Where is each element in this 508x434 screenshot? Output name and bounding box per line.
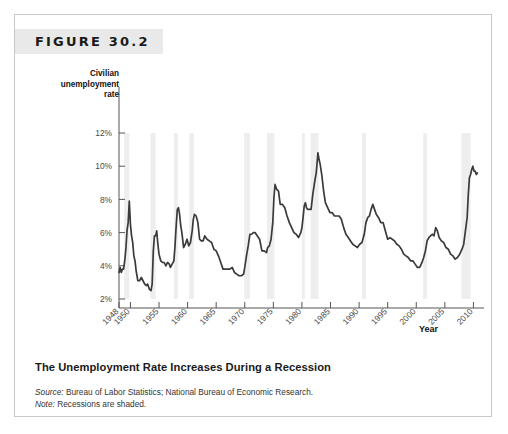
x-tick-label: 2010 — [455, 306, 475, 326]
y-tick-label: 10% — [95, 161, 112, 171]
recession-band — [244, 133, 250, 299]
x-tick-label: 1975 — [255, 306, 275, 326]
source-text: Bureau of Labor Statistics; National Bur… — [64, 387, 314, 397]
axis-group — [119, 87, 484, 308]
x-tick-label: 1960 — [169, 306, 189, 326]
x-tick-label: 1985 — [312, 306, 332, 326]
y-tick-label: 4% — [100, 261, 113, 271]
x-tick-label: 1965 — [197, 306, 217, 326]
x-tick-label: 1990 — [340, 306, 360, 326]
unemployment-line-chart: 2%4%6%8%10%12% 1948195019551960196519701… — [15, 15, 493, 345]
figure-source-line: Source: Bureau of Labor Statistics; Nati… — [35, 387, 313, 397]
y-axis-ticks: 2%4%6%8%10%12% — [95, 128, 125, 304]
recession-band — [362, 133, 366, 299]
y-tick-label: 8% — [100, 195, 113, 205]
x-tick-label: 1970 — [226, 306, 246, 326]
figure-container: FIGURE 30.2 2%4%6%8%10%12% 1948195019551… — [14, 14, 492, 417]
x-tick-label: 1980 — [283, 306, 303, 326]
recession-band — [189, 133, 194, 299]
note-text: Recessions are shaded. — [55, 399, 146, 409]
chart-plot-area: 2%4%6%8%10%12% 1948195019551960196519701… — [15, 15, 493, 345]
source-label: Source: — [35, 387, 64, 397]
x-axis-ticks: 1948195019551960196519701975198019851990… — [100, 302, 475, 327]
y-tick-label: 6% — [100, 228, 113, 238]
recession-band — [423, 133, 427, 299]
x-tick-label: 2000 — [397, 306, 417, 326]
figure-caption-title: The Unemployment Rate Increases During a… — [35, 361, 331, 373]
y-axis-title: Civilian unemployment rate — [49, 69, 119, 101]
x-tick-label: 1995 — [369, 306, 389, 326]
y-tick-label: 12% — [95, 128, 112, 138]
x-axis-title: Year — [419, 324, 438, 334]
recession-band — [461, 133, 470, 299]
x-tick-label: 1955 — [140, 306, 160, 326]
note-label: Note: — [35, 399, 55, 409]
figure-note-line: Note: Recessions are shaded. — [35, 399, 146, 409]
y-tick-label: 2% — [100, 294, 113, 304]
